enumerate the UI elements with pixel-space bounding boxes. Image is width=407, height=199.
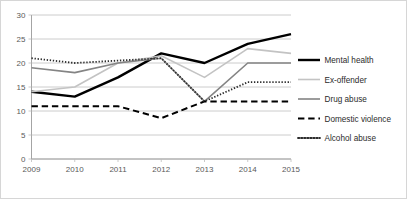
legend-item-mental-health: Mental health <box>298 56 374 65</box>
y-axis-tick-label: 10 <box>17 107 26 116</box>
y-axis-tick-label: 0 <box>21 155 26 164</box>
chart-legend: Mental healthEx-offenderDrug abuseDomest… <box>298 56 391 143</box>
y-axis-tick-label: 20 <box>17 59 26 68</box>
x-axis-tick-label: 2009 <box>23 165 41 174</box>
legend-item-domestic-violence: Domestic violence <box>298 115 391 124</box>
x-axis-tick-label: 2012 <box>152 165 170 174</box>
series-line-domestic-violence <box>32 101 292 118</box>
legend-label: Drug abuse <box>325 95 368 104</box>
legend-label: Domestic violence <box>325 115 392 124</box>
line-chart-figure: 051015202530 200920102011201220132014201… <box>0 0 407 199</box>
legend-label: Alcohol abuse <box>325 134 377 143</box>
y-axis-tick-labels: 051015202530 <box>17 11 26 164</box>
legend-item-alcohol-abuse: Alcohol abuse <box>298 134 376 143</box>
y-axis-tick-label: 30 <box>17 11 26 20</box>
legend-label: Mental health <box>325 56 375 65</box>
x-axis-tick-labels: 2009201020112012201320142015 <box>23 165 301 174</box>
y-axis-tick-label: 25 <box>17 35 26 44</box>
x-axis-tick-label: 2013 <box>196 165 214 174</box>
x-axis-tick-label: 2014 <box>239 165 257 174</box>
x-axis-tick-label: 2015 <box>282 165 300 174</box>
y-axis-tick-label: 15 <box>17 83 26 92</box>
x-axis-tick-label: 2010 <box>66 165 84 174</box>
x-axis-tick-label: 2011 <box>109 165 127 174</box>
legend-label: Ex-offender <box>325 76 367 85</box>
y-axis-tick-label: 5 <box>21 131 26 140</box>
legend-item-ex-offender: Ex-offender <box>298 76 367 85</box>
legend-item-drug-abuse: Drug abuse <box>298 95 367 104</box>
data-series <box>32 34 292 118</box>
chart-canvas: 051015202530 200920102011201220132014201… <box>1 1 407 199</box>
series-line-ex-offender <box>32 49 292 92</box>
